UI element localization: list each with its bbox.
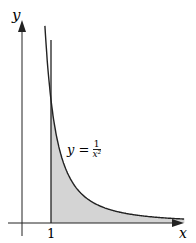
tick-label-1: 1 — [47, 226, 55, 241]
y-axis-label: y — [12, 6, 20, 24]
diagram: y x 1 y = 1 x² — [0, 0, 196, 243]
equation-lhs: y = — [67, 142, 89, 157]
curve-label: y = 1 x² — [67, 140, 101, 159]
denominator: x² — [92, 150, 101, 159]
shaded-area — [51, 100, 184, 223]
plot — [0, 0, 196, 243]
x-axis-label: x — [179, 225, 187, 241]
fraction: 1 x² — [92, 140, 101, 159]
